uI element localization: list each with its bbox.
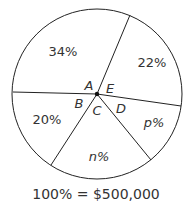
angle-label-e: E xyxy=(106,81,115,96)
sector-label-34: 34% xyxy=(49,44,78,59)
total-caption: 100% = $500,000 xyxy=(0,186,192,202)
center-point xyxy=(95,92,99,96)
angle-label-a: A xyxy=(84,78,94,93)
angle-label-c: C xyxy=(92,103,102,118)
angle-label-b: B xyxy=(75,96,84,111)
pie-diagram: 34% 22% p% n% 20% A E D C B xyxy=(0,0,192,213)
sector-label-22: 22% xyxy=(138,55,167,70)
angle-label-d: D xyxy=(116,101,126,116)
sector-label-20: 20% xyxy=(33,112,62,127)
sector-label-n: n% xyxy=(89,149,110,164)
sector-label-p: p% xyxy=(143,115,165,130)
